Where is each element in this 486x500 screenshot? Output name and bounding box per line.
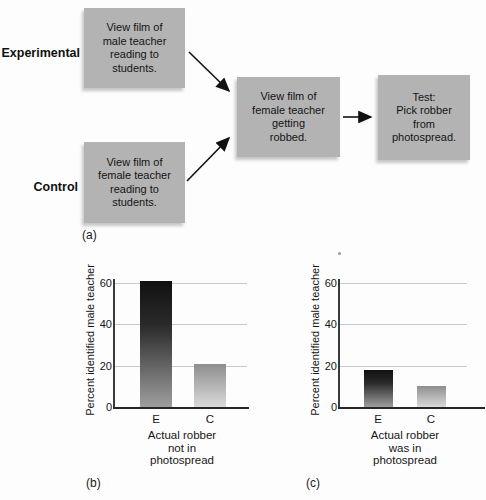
y-tick-label: 0 bbox=[313, 401, 337, 413]
panel-label-c: (c) bbox=[306, 476, 320, 490]
gridline-20 bbox=[339, 366, 467, 367]
x-tick-label-e: E bbox=[366, 413, 390, 425]
bar-chart-c: Percent identified male teacher0204060EC… bbox=[0, 0, 486, 500]
gridline-40 bbox=[339, 324, 467, 325]
print-artifact-dot bbox=[338, 252, 341, 255]
y-axis-line bbox=[338, 279, 340, 408]
figure-canvas: Experimental Control View film of male t… bbox=[0, 0, 486, 500]
x-tick-label-c: C bbox=[419, 413, 443, 425]
bar-c bbox=[417, 386, 446, 407]
bar-e bbox=[364, 370, 393, 407]
gridline-60 bbox=[339, 283, 467, 284]
x-axis-line bbox=[338, 407, 485, 409]
y-tick-label: 40 bbox=[313, 318, 337, 330]
y-tick-label: 60 bbox=[313, 277, 337, 289]
y-tick-label: 20 bbox=[313, 360, 337, 372]
x-axis-title: Actual robber was in photospread bbox=[343, 429, 467, 467]
